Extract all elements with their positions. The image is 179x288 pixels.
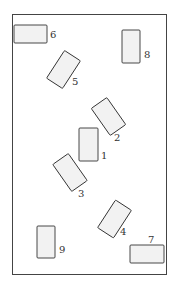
rect-item-8: 8: [122, 30, 150, 63]
rectangle-label: 6: [50, 29, 56, 40]
layout-diagram: 123456789: [0, 0, 179, 288]
rectangles-group: 123456789: [14, 25, 164, 263]
rectangle-label: 9: [59, 244, 65, 255]
rect-item-7: 7: [130, 234, 164, 263]
rect-item-5: 5: [47, 50, 81, 88]
rect-item-4: 4: [98, 200, 132, 238]
rectangle-label: 3: [78, 188, 84, 199]
rect-item-6: 6: [14, 25, 56, 43]
rect-item-9: 9: [37, 226, 65, 258]
rectangle-label: 2: [114, 132, 120, 143]
rectangle-label: 5: [72, 76, 78, 87]
rectangle-label: 4: [120, 226, 126, 237]
rectangle-label: 7: [148, 234, 154, 245]
rectangle-label: 1: [101, 150, 107, 161]
rectangle-shape: [79, 128, 98, 161]
rectangle-shape: [130, 245, 164, 263]
rectangle-shape: [14, 25, 47, 43]
rectangle-shape: [37, 226, 55, 258]
rect-item-1: 1: [79, 128, 107, 161]
rectangle-label: 8: [144, 49, 150, 60]
rectangle-shape: [122, 30, 140, 63]
